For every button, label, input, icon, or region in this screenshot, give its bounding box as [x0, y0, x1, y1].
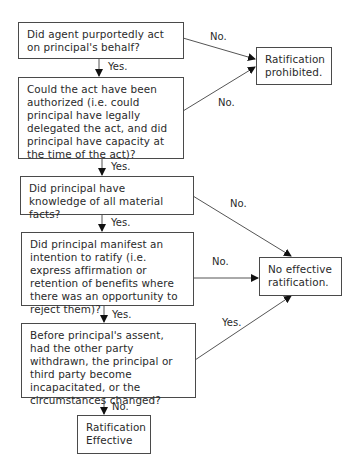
edge-label-q1-yes: Yes.	[108, 61, 127, 72]
edge-label-q2-no: No.	[218, 97, 235, 108]
outcome-ratification-effective: Ratification Effective	[77, 415, 151, 454]
outcome-no-effective-ratification: No effective ratification.	[259, 257, 342, 296]
edge-label-q1-no: No.	[210, 31, 227, 42]
question-circumstances-changed: Before principal's assent, had the other…	[21, 323, 196, 398]
edge-label-q3-no: No.	[230, 198, 247, 209]
outcome-ratification-prohibited: Ratification prohibited.	[256, 47, 332, 85]
edge-label-q4-no: No.	[212, 256, 229, 267]
edge-label-q4-yes: Yes.	[112, 309, 131, 320]
question-acted-on-behalf: Did agent purportedly act on principal's…	[18, 22, 184, 59]
question-could-be-authorized: Could the act have been authorized (i.e.…	[18, 77, 184, 159]
question-manifest-intention: Did principal manifest an intention to r…	[21, 232, 194, 306]
question-knowledge-of-facts: Did principal have knowledge of all mate…	[20, 176, 194, 215]
edge-label-q5-yes: Yes.	[222, 317, 241, 328]
edge-label-q3-yes: Yes.	[111, 217, 130, 228]
edge-label-q2-yes: Yes.	[111, 161, 130, 172]
edge-label-q5-no: No.	[112, 401, 129, 412]
